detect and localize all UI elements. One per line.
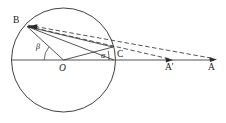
angle-label-alpha: α [101,52,105,60]
angle-arc-beta [44,47,49,60]
geometry-figure: B O C A' A β α [0,0,226,123]
segment-O-B [27,27,64,61]
figure-canvas [0,0,226,123]
point-label-C: C [117,50,123,60]
point-label-B: B [13,16,19,26]
segment-O-upper-C [64,47,114,60]
angle-arc-alpha [108,51,109,60]
point-label-O: O [59,64,66,74]
point-label-A-prime: A' [165,63,174,73]
point-label-A: A [208,63,215,73]
angle-label-beta: β [36,43,40,51]
